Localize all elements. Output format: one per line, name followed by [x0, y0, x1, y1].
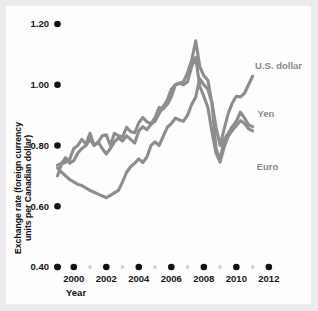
- chart-canvas: 1.201.000.800.600.40 2000200220042006200…: [0, 0, 318, 311]
- y-tick-label-0.40: 0.40: [31, 261, 50, 272]
- x-tick-label-2006: 2006: [161, 273, 182, 284]
- exchange-rate-line-chart: 1.201.000.800.600.40 2000200220042006200…: [0, 0, 318, 311]
- x-tick-label-2008: 2008: [193, 273, 214, 284]
- y-axis-title-line1: Exchange rate (foreign currency: [13, 122, 23, 254]
- x-axis-title: Year: [66, 287, 86, 298]
- x-tick-label-2004: 2004: [128, 273, 150, 284]
- series-label-euro: Euro: [257, 161, 279, 172]
- x-axis-ticks: 2000200220042006200820102012: [54, 264, 279, 284]
- series-labels: U.S. dollarYenEuro: [255, 60, 302, 173]
- x-tick-label-2012: 2012: [258, 273, 279, 284]
- series-label-yen: Yen: [257, 108, 274, 119]
- y-tick-label-0.60: 0.60: [31, 201, 50, 212]
- data-series: [58, 41, 253, 198]
- series-line-euro: [58, 57, 253, 175]
- y-tick-label-1.20: 1.20: [31, 18, 50, 29]
- y-tick-label-0.80: 0.80: [31, 140, 50, 151]
- x-tick-label-2010: 2010: [226, 273, 247, 284]
- y-axis-title-line2: units per Canadian dollar): [23, 135, 33, 241]
- y-tick-label-1.00: 1.00: [31, 79, 50, 90]
- x-tick-label-2000: 2000: [63, 273, 84, 284]
- x-tick-label-2002: 2002: [96, 273, 117, 284]
- series-label-u-s-dollar: U.S. dollar: [255, 60, 302, 71]
- series-line-u-s-dollar: [58, 76, 253, 198]
- y-axis-ticks: 1.201.000.800.600.40: [31, 18, 61, 272]
